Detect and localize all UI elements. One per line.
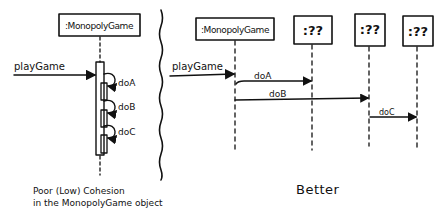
self-call-doC-label: doC — [118, 127, 136, 137]
self-call-doA-arrow — [104, 73, 115, 86]
doC-label: doC — [379, 108, 395, 117]
playgame-label: playGame — [14, 61, 65, 72]
right-caption: Better — [296, 182, 340, 197]
unknown-object-label-3: :?? — [408, 24, 428, 39]
unknown-object-label-1: :?? — [303, 23, 323, 38]
unknown-object-label-2: :?? — [360, 22, 380, 37]
playgame-arrow — [170, 74, 234, 76]
monopolygame-object-label: :MonopolyGame — [65, 21, 134, 31]
doA-arrow — [236, 81, 311, 84]
left-caption-line1: Poor (Low) Cohesion — [33, 186, 125, 196]
doB-label: doB — [269, 89, 286, 99]
doB-arrow — [235, 98, 368, 100]
self-call-doB-arrow — [104, 100, 115, 113]
self-call-doA-label: doA — [118, 78, 136, 88]
left-panel: :MonopolyGame playGame doA doB doC Poor … — [14, 14, 163, 208]
self-call-doB-label: doB — [118, 102, 135, 112]
left-caption-line2: in the MonopolyGame object — [33, 198, 163, 208]
panel-divider — [160, 10, 163, 180]
right-panel: :MonopolyGame :?? :?? :?? playGame doA d… — [170, 14, 433, 197]
doA-label: doA — [254, 71, 272, 81]
cohesion-comparison-diagram: :MonopolyGame playGame doA doB doC Poor … — [0, 0, 441, 224]
activation-bar — [96, 62, 104, 155]
playgame-label: playGame — [172, 61, 223, 72]
monopolygame-object-label: :MonopolyGame — [201, 25, 270, 35]
